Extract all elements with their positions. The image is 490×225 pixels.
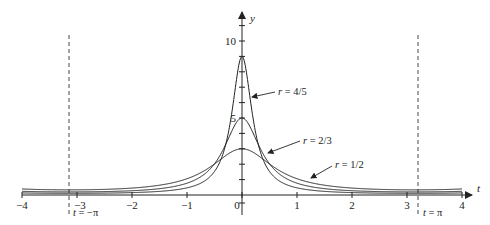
label-r-1-2: r = 1/2 — [335, 159, 364, 170]
x-tick-label: 1 — [294, 199, 300, 211]
x-tick-label: −4 — [16, 199, 28, 211]
arrow-r23 — [268, 141, 300, 153]
x-tick-label: −2 — [126, 199, 138, 211]
y-tick-label-10: 10 — [225, 35, 237, 47]
x-tick-label: −1 — [181, 199, 193, 211]
neg-pi-label: t = −π — [73, 207, 99, 218]
x-axis-label: t — [477, 182, 481, 194]
arrow-r12 — [311, 166, 332, 178]
x-tick-label: 3 — [404, 199, 410, 211]
x-tick-label: 4 — [459, 199, 465, 211]
y-tick-label-5: 5 — [231, 112, 237, 124]
label-r-4-5: r = 4/5 — [278, 86, 307, 97]
label-r-2-3: r = 2/3 — [303, 135, 332, 146]
y-axis-label: y — [249, 12, 255, 24]
poisson-kernel-chart: −4 −3 −2 −1 0 1 2 3 4 10 5 y t t = −π t … — [0, 0, 490, 225]
arrow-r45 — [252, 92, 275, 97]
x-tick-label: 2 — [349, 199, 355, 211]
x-tick-label: 0 — [234, 199, 240, 211]
pi-label: t = π — [423, 207, 443, 218]
